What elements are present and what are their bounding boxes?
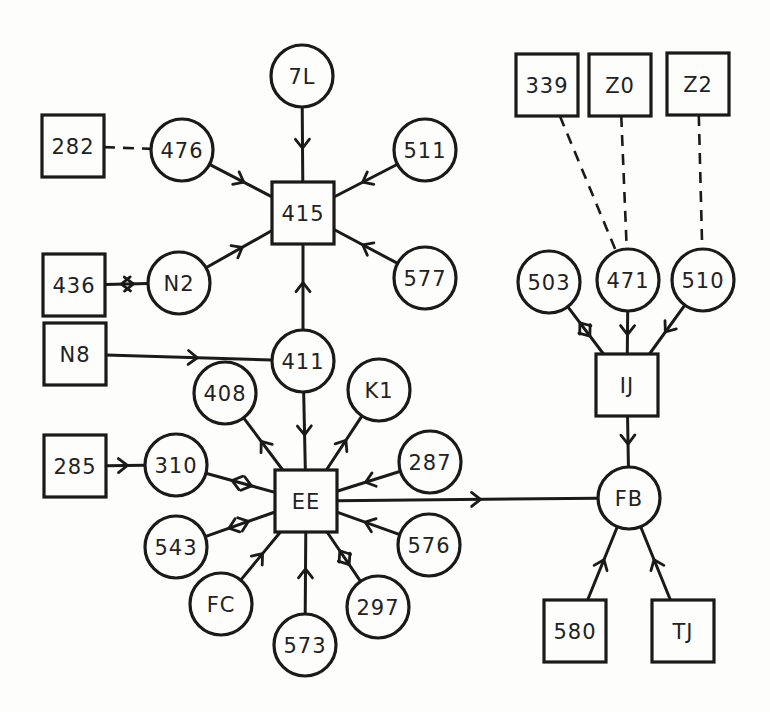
solid-connector bbox=[244, 418, 283, 470]
node-label: 310 bbox=[154, 454, 197, 478]
node-297: 297 bbox=[347, 576, 409, 638]
node-label: 577 bbox=[403, 267, 446, 291]
node-label: 285 bbox=[53, 455, 96, 479]
edge-287-EE bbox=[337, 471, 400, 491]
node-label: 511 bbox=[403, 139, 446, 163]
node-label: 282 bbox=[51, 135, 94, 159]
node-511: 511 bbox=[394, 119, 456, 181]
node-label: FC bbox=[207, 593, 236, 617]
solid-connector bbox=[649, 305, 684, 354]
node-580: 580 bbox=[544, 600, 606, 662]
solid-connector bbox=[304, 392, 306, 470]
node-label: 471 bbox=[606, 269, 649, 293]
node-N2: N2 bbox=[148, 252, 210, 314]
node-510: 510 bbox=[672, 249, 734, 311]
node-310: 310 bbox=[145, 434, 207, 496]
node-label: Z2 bbox=[683, 73, 713, 97]
node-label: N2 bbox=[163, 272, 194, 296]
edge-N2-415 bbox=[206, 231, 272, 268]
solid-connector bbox=[209, 164, 272, 197]
node-N8: N8 bbox=[44, 323, 106, 385]
node-FB: FB bbox=[598, 467, 660, 529]
node-label: 503 bbox=[527, 271, 570, 295]
node-Z2: Z2 bbox=[667, 53, 729, 115]
node-label: FB bbox=[615, 487, 644, 511]
node-339: 339 bbox=[516, 54, 578, 116]
edge-471-IJ bbox=[621, 311, 635, 354]
node-573: 573 bbox=[274, 614, 336, 676]
solid-connector bbox=[334, 164, 397, 197]
node-543: 543 bbox=[145, 516, 207, 578]
edge-510-IJ bbox=[649, 305, 684, 354]
solid-connector bbox=[305, 532, 306, 614]
edge-7L-415 bbox=[295, 107, 309, 182]
node-TJ: TJ bbox=[652, 600, 714, 662]
node-503: 503 bbox=[518, 251, 580, 313]
node-476: 476 bbox=[151, 119, 213, 181]
node-408: 408 bbox=[194, 362, 256, 424]
edge-TJ-FB bbox=[641, 527, 671, 600]
edge-573-EE bbox=[298, 532, 312, 614]
node-577: 577 bbox=[394, 247, 456, 309]
node-415: 415 bbox=[272, 182, 334, 244]
solid-connector bbox=[337, 471, 400, 491]
node-label: 7L bbox=[288, 65, 315, 89]
edge-436-N2 bbox=[105, 277, 148, 291]
node-label: Z0 bbox=[605, 74, 635, 98]
node-label: 339 bbox=[525, 74, 568, 98]
node-K1: K1 bbox=[348, 359, 410, 421]
edge-576-EE bbox=[337, 512, 400, 534]
node-label: TJ bbox=[671, 620, 693, 644]
solid-connector bbox=[326, 416, 362, 470]
solid-connector bbox=[327, 532, 361, 581]
node-287: 287 bbox=[399, 431, 461, 493]
dashed-connector bbox=[104, 147, 151, 149]
edge-Z0-471 bbox=[621, 116, 626, 249]
network-diagram: 7L282476511415436N2577N8411408K1285310EE… bbox=[0, 0, 770, 712]
edge-411-415 bbox=[296, 244, 310, 330]
node-label: 580 bbox=[553, 620, 596, 644]
solid-connector bbox=[241, 532, 281, 580]
edge-EE-297 bbox=[327, 532, 361, 581]
edge-EE-543 bbox=[205, 512, 275, 537]
node-label: 411 bbox=[281, 350, 324, 374]
node-label: K1 bbox=[364, 379, 393, 403]
node-label: 476 bbox=[160, 139, 203, 163]
edge-Z2-510 bbox=[699, 115, 702, 249]
solid-connector bbox=[588, 527, 618, 600]
node-411: 411 bbox=[272, 330, 334, 392]
node-471: 471 bbox=[597, 249, 659, 311]
edge-IJ-503 bbox=[568, 307, 604, 354]
node-label: N8 bbox=[59, 343, 90, 367]
node-label: IJ bbox=[620, 374, 634, 398]
edge-580-FB bbox=[588, 527, 618, 600]
node-Z0: Z0 bbox=[589, 54, 651, 116]
node-label: 573 bbox=[283, 634, 326, 658]
node-FC: FC bbox=[190, 573, 252, 635]
node-285: 285 bbox=[44, 435, 106, 497]
edge-EE-408 bbox=[244, 418, 283, 470]
edge-282-476 bbox=[104, 147, 151, 149]
edge-IJ-FB bbox=[621, 416, 635, 467]
node-label: 287 bbox=[408, 451, 451, 475]
edge-577-415 bbox=[334, 230, 398, 264]
solid-connector bbox=[105, 284, 148, 285]
edge-EE-FB bbox=[337, 492, 598, 506]
edge-285-310 bbox=[106, 459, 145, 473]
edge-EE-K1 bbox=[326, 416, 362, 470]
node-label: 436 bbox=[52, 274, 95, 298]
node-EE: EE bbox=[275, 470, 337, 532]
node-label: 543 bbox=[154, 536, 197, 560]
node-7L: 7L bbox=[271, 45, 333, 107]
dashed-connector bbox=[560, 116, 616, 251]
solid-connector bbox=[206, 231, 272, 268]
dashed-connector bbox=[699, 115, 702, 249]
solid-connector bbox=[641, 527, 671, 600]
node-label: EE bbox=[292, 490, 321, 514]
dashed-connector bbox=[621, 116, 626, 249]
edge-310-EE bbox=[206, 473, 275, 492]
node-282: 282 bbox=[42, 115, 104, 177]
node-label: 415 bbox=[281, 202, 324, 226]
edge-411-EE bbox=[297, 392, 311, 470]
node-IJ: IJ bbox=[596, 354, 658, 416]
